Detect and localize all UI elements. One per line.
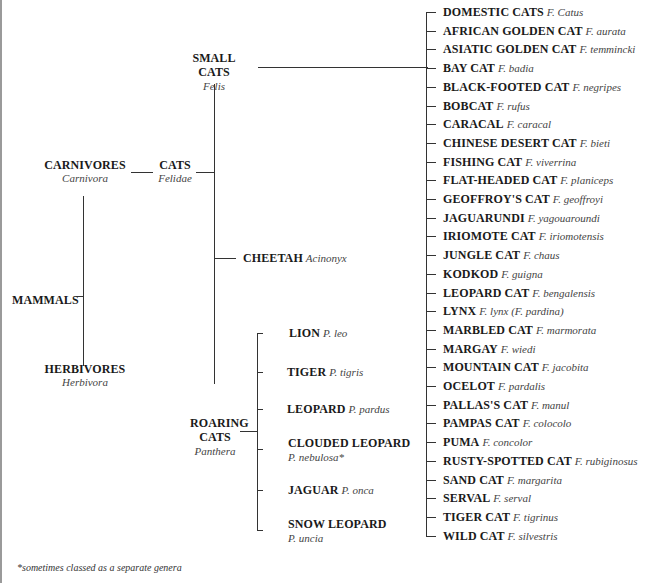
species-name: OCELOT xyxy=(443,379,495,393)
connector xyxy=(426,349,436,350)
node-latin: Herbivora xyxy=(40,376,130,389)
species-name: PUMA xyxy=(443,435,479,449)
node-latin: Felis xyxy=(178,80,250,93)
small-species-item: BOBCAT F. rufus xyxy=(443,99,530,113)
connector xyxy=(257,530,263,531)
small-species-item: GEOFFROY'S CAT F. geoffroyi xyxy=(443,192,603,206)
connector xyxy=(426,236,436,237)
small-species-item: DOMESTIC CATS F. Catus xyxy=(443,5,583,19)
connector xyxy=(426,274,436,275)
species-latin: F. silvestris xyxy=(508,530,558,542)
connector xyxy=(426,255,436,256)
small-species-item: LEOPARD CAT F. bengalensis xyxy=(443,286,595,300)
connector xyxy=(76,296,83,297)
connector xyxy=(257,409,263,410)
small-species-item: ASIATIC GOLDEN CAT F. temmincki xyxy=(443,42,635,56)
connector xyxy=(426,218,436,219)
species-latin: F. concolor xyxy=(482,436,532,448)
node-name: CARNIVORES xyxy=(40,158,130,172)
connector xyxy=(257,333,263,334)
species-latin: F. bieti xyxy=(580,137,610,149)
connector xyxy=(426,12,436,13)
connector xyxy=(426,498,436,499)
roaring-species-item: CLOUDED LEOPARD P. nebulosa* xyxy=(288,436,410,464)
species-name: RUSTY-SPOTTED CAT xyxy=(443,454,572,468)
node-cats: CATS Felidae xyxy=(155,158,195,186)
species-latin: F. Catus xyxy=(547,6,583,18)
species-latin: F. caracal xyxy=(507,118,551,130)
species-name: JUNGLE CAT xyxy=(443,248,520,262)
connector xyxy=(257,490,263,491)
species-latin: F. planiceps xyxy=(560,174,613,186)
connector xyxy=(257,449,263,450)
connector xyxy=(214,84,215,384)
connector xyxy=(426,68,436,69)
page-edge xyxy=(0,0,2,583)
species-name: MOUNTAIN CAT xyxy=(443,360,539,374)
footnote: *sometimes classed as a separate genera xyxy=(17,562,182,573)
small-species-item: IRIOMOTE CAT F. iriomotensis xyxy=(443,229,604,243)
connector xyxy=(426,143,436,144)
species-name: DOMESTIC CATS xyxy=(443,5,544,19)
small-species-item: BLACK-FOOTED CAT F. negripes xyxy=(443,80,621,94)
connector xyxy=(131,172,153,173)
small-species-item: MARBLED CAT F. marmorata xyxy=(443,323,596,337)
species-latin: F. guigna xyxy=(501,268,542,280)
species-latin: F. tigrinus xyxy=(513,511,558,523)
roaring-species-item: LEOPARD P. pardus xyxy=(287,402,389,416)
species-latin: F. iriomotensis xyxy=(539,230,604,242)
small-species-item: LYNX F. lynx (F. pardina) xyxy=(443,304,564,318)
species-latin: F. lynx (F. pardina) xyxy=(479,305,563,317)
small-species-item: PAMPAS CAT F. colocolo xyxy=(443,416,571,430)
connector xyxy=(426,367,436,368)
species-name: MARGAY xyxy=(443,342,498,356)
species-latin: F. temmincki xyxy=(579,43,635,55)
node-herbivores: HERBIVORES Herbivora xyxy=(40,362,130,390)
species-name: BLACK-FOOTED CAT xyxy=(443,80,569,94)
node-carnivores: CARNIVORES Carnivora xyxy=(40,158,130,186)
connector xyxy=(426,330,436,331)
species-latin: F. bengalensis xyxy=(532,287,595,299)
connector xyxy=(426,536,436,537)
connector xyxy=(426,480,436,481)
node-name: CHEETAH xyxy=(243,251,303,265)
species-name: ASIATIC GOLDEN CAT xyxy=(443,42,576,56)
node-small-cats: SMALL CATS Felis xyxy=(178,51,250,93)
node-latin: Acinonyx xyxy=(306,252,347,264)
species-latin: F. wiedi xyxy=(501,343,536,355)
species-latin: F. jacobita xyxy=(542,361,589,373)
connector xyxy=(426,405,436,406)
connector xyxy=(426,442,436,443)
small-species-item: PUMA F. concolor xyxy=(443,435,532,449)
species-latin: F. negripes xyxy=(572,81,621,93)
species-latin: F. colocolo xyxy=(523,417,572,429)
connector xyxy=(426,423,436,424)
node-name: MAMMALS xyxy=(12,293,79,307)
roaring-species-item: SNOW LEOPARD P. uncia xyxy=(288,517,386,545)
species-latin: F. pardalis xyxy=(498,380,545,392)
species-name: SERVAL xyxy=(443,491,490,505)
small-species-item: AFRICAN GOLDEN CAT F. aurata xyxy=(443,24,626,38)
connector xyxy=(426,31,436,32)
connector xyxy=(426,293,436,294)
small-species-item: PALLAS'S CAT F. manul xyxy=(443,398,569,412)
species-name: KODKOD xyxy=(443,267,498,281)
small-species-item: SAND CAT F. margarita xyxy=(443,473,562,487)
node-name: SMALL CATS xyxy=(178,51,250,80)
species-name: IRIOMOTE CAT xyxy=(443,229,536,243)
node-latin: Panthera xyxy=(190,445,240,458)
small-species-item: TIGER CAT F. tigrinus xyxy=(443,510,558,524)
node-name-line1: ROARING xyxy=(190,416,240,430)
species-name: TIGER CAT xyxy=(443,510,510,524)
species-latin: F. chaus xyxy=(523,249,559,261)
species-name: CHINESE DESERT CAT xyxy=(443,136,577,150)
species-name: LEOPARD CAT xyxy=(443,286,529,300)
connector xyxy=(426,162,436,163)
species-latin: F. aurata xyxy=(586,25,626,37)
small-species-item: MARGAY F. wiedi xyxy=(443,342,535,356)
species-latin: F. badia xyxy=(498,62,534,74)
species-name: FLAT-HEADED CAT xyxy=(443,173,557,187)
small-species-item: WILD CAT F. silvestris xyxy=(443,529,558,543)
species-latin: F. geoffroyi xyxy=(553,193,603,205)
connector xyxy=(240,431,257,432)
